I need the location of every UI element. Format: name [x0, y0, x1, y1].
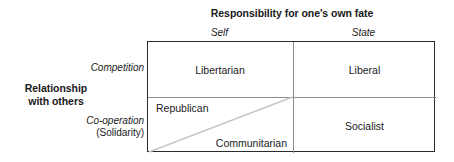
- column-label-state: State: [292, 27, 435, 38]
- row-label-cooperation-main: Co-operation: [86, 115, 144, 127]
- vertical-divider-line: [293, 42, 294, 153]
- ideology-matrix-diagram: Responsibility for one's own fate Self S…: [0, 0, 454, 162]
- row-label-cooperation-sub: (Solidarity): [86, 127, 144, 139]
- row-label-cooperation: Co-operation (Solidarity): [86, 115, 144, 139]
- cell-libertarian: Libertarian: [148, 64, 292, 76]
- cell-communitarian: Communitarian: [148, 137, 287, 149]
- cell-liberal: Liberal: [293, 64, 436, 76]
- row-axis-title-line2: with others: [28, 95, 83, 107]
- column-axis-title: Responsibility for one's own fate: [147, 7, 437, 19]
- matrix-box: Libertarian Liberal Republican Communita…: [147, 41, 435, 152]
- row-axis-title-line1: Relationship: [25, 82, 87, 94]
- column-label-self: Self: [147, 27, 292, 38]
- cell-socialist: Socialist: [293, 120, 436, 132]
- cell-republican: Republican: [156, 102, 209, 114]
- row-axis-title: Relationship with others: [4, 82, 108, 108]
- horizontal-divider-line: [148, 97, 436, 98]
- row-label-competition: Competition: [91, 62, 144, 74]
